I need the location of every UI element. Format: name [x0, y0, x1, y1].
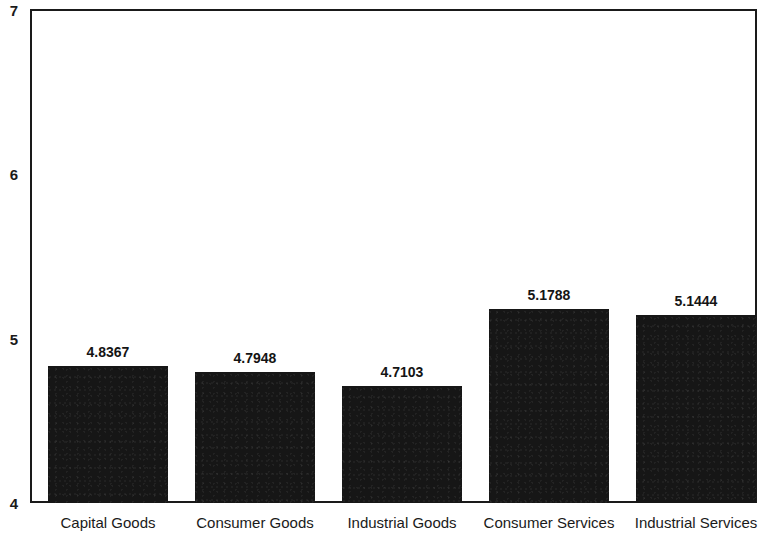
y-axis-tick-4: 4: [4, 496, 24, 511]
y-axis-tick-5: 5: [4, 331, 24, 346]
plot-area: [30, 9, 757, 503]
x-axis-category-label: Industrial Goods: [347, 515, 456, 530]
x-axis-category-label: Industrial Services: [635, 515, 758, 530]
y-axis-tick-7: 7: [4, 3, 24, 18]
bar-chart: 7654 4.83674.79484.71035.17885.1444 Capi…: [0, 0, 771, 544]
x-axis-category-label: Consumer Goods: [196, 515, 314, 530]
y-axis-tick-6: 6: [4, 167, 24, 182]
x-axis-category-label: Consumer Services: [484, 515, 615, 530]
x-axis-category-label: Capital Goods: [60, 515, 155, 530]
